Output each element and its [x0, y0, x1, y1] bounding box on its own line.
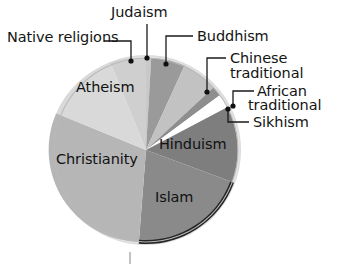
anchor-dot-african-traditional — [230, 103, 235, 108]
callout-label-buddhism: Buddhism — [197, 29, 269, 44]
anchor-dot-sikhism — [225, 106, 230, 111]
anchor-dot-chinese-traditional — [204, 89, 209, 94]
callout-label-chinese-line1: Chinese — [230, 51, 287, 66]
slice-label-christianity: Christianity — [56, 152, 138, 167]
callout-label-judaism: Judaism — [111, 5, 168, 20]
anchor-dot-native-religions — [128, 58, 133, 63]
slice-label-atheism: Atheism — [76, 80, 134, 95]
anchor-dot-judaism — [144, 55, 149, 60]
pie-chart-figure: Judaism Native religions Buddhism Chines… — [0, 0, 345, 264]
slice-label-hinduism: Hinduism — [159, 137, 226, 152]
callout-label-sikhism: Sikhism — [253, 115, 309, 130]
callout-label-native-religions: Native religions — [7, 30, 118, 45]
slice-label-islam: Islam — [155, 190, 193, 205]
callout-label-chinese-line2: traditional — [230, 66, 303, 81]
callout-label-african-line2: traditional — [248, 98, 321, 113]
anchor-dot-buddhism — [163, 61, 168, 66]
